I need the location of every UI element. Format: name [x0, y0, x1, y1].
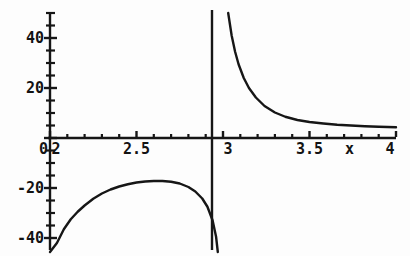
x-axis-tick-label: 2: [48, 140, 65, 158]
plot-canvas: [0, 0, 410, 256]
function-plot: 4020-20-40022.533.54 x: [0, 0, 410, 256]
curve-left-branch: [50, 181, 218, 252]
x-axis-tick-label: 4: [382, 140, 399, 158]
y-axis-tick-label: 40: [26, 29, 44, 47]
y-axis-tick-label: 20: [26, 79, 44, 97]
x-axis-tick-label: 2.5: [119, 140, 154, 158]
x-axis-tick-label: 3.5: [292, 140, 327, 158]
y-axis-tick-label: -40: [17, 229, 44, 247]
axes-group: [48, 10, 396, 250]
curve-right-branch: [228, 13, 396, 127]
x-axis-title: x: [345, 140, 354, 158]
y-axis-tick-label: -20: [17, 179, 44, 197]
x-axis-tick-label: 3: [220, 140, 237, 158]
